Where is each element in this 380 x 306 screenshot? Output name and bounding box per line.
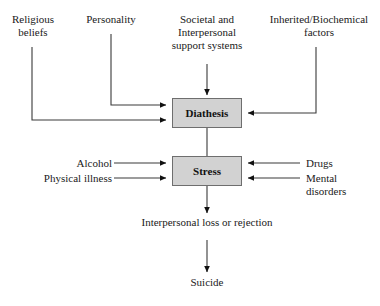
edge-inherited-factors-to-diathesis xyxy=(248,47,316,113)
box-diathesis: Diathesis xyxy=(172,98,242,128)
label-mental-disorders: Mental disorders xyxy=(306,172,376,198)
label-alcohol: Alcohol xyxy=(48,157,112,170)
label-drugs: Drugs xyxy=(306,157,370,170)
box-stress: Stress xyxy=(172,156,242,186)
label-inherited-biochemical-factors: Inherited/Biochemical factors xyxy=(259,13,379,39)
label-physical-illness: Physical illness xyxy=(20,172,112,185)
label-suicide: Suicide xyxy=(157,276,257,289)
label-societal-support-systems: Societal and Interpersonal support syste… xyxy=(153,13,261,52)
stress-diathesis-diagram: Religious beliefs Personality Societal a… xyxy=(0,0,380,306)
label-religious-beliefs: Religious beliefs xyxy=(0,13,66,39)
edge-religious-beliefs-to-diathesis xyxy=(32,47,166,120)
label-personality: Personality xyxy=(72,13,150,26)
label-interpersonal-loss-or-rejection: Interpersonal loss or rejection xyxy=(107,216,307,229)
